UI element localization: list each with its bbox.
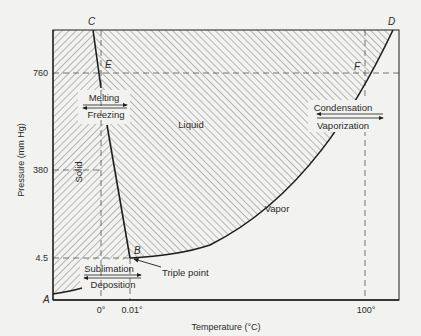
sublimation-label: Sublimation	[84, 263, 134, 274]
vaporization-label: Vaporization	[317, 120, 369, 131]
region-solid-label: Solid	[73, 161, 84, 182]
y-tick-380: 380	[33, 165, 48, 175]
region-vapor-label: Vapor	[265, 203, 290, 214]
deposition-label: Deposition	[91, 279, 136, 290]
point-a-label: A	[42, 294, 50, 305]
liquid-region	[93, 30, 393, 258]
region-liquid-label: Liquid	[178, 119, 203, 130]
x-tick-0-01deg: 0.01°	[121, 305, 143, 315]
y-tick-4-5: 4.5	[35, 253, 48, 263]
x-tick-0deg: 0°	[97, 305, 106, 315]
freezing-label: Freezing	[88, 109, 125, 120]
y-tick-760: 760	[33, 68, 48, 78]
point-c-label: C	[88, 16, 96, 27]
phase-diagram-svg: C E D F B A Melting Freezing Condensatio…	[0, 0, 421, 336]
x-axis-title: Temperature (°C)	[191, 322, 260, 332]
point-d-label: D	[388, 16, 395, 27]
point-b-label: B	[134, 245, 141, 256]
point-e-label: E	[105, 59, 112, 70]
x-tick-100deg: 100°	[357, 305, 376, 315]
triple-point-label: Triple point	[162, 267, 209, 278]
condensation-label: Condensation	[314, 102, 373, 113]
phase-diagram: C E D F B A Melting Freezing Condensatio…	[0, 0, 421, 336]
point-f-label: F	[354, 61, 361, 72]
melting-label: Melting	[89, 92, 120, 103]
y-axis-title: Pressure (mm Hg)	[16, 123, 26, 197]
